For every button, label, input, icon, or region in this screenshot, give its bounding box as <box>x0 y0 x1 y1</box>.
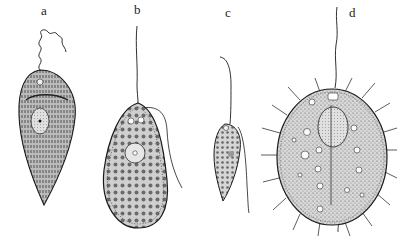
body-c <box>214 124 240 201</box>
flagellum-a <box>39 30 66 70</box>
flagellum-d <box>335 7 337 88</box>
organism-b <box>103 26 182 228</box>
body-b <box>103 103 167 228</box>
organism-d <box>261 7 397 236</box>
organism-c <box>214 57 249 213</box>
protozoa-illustration <box>0 0 397 238</box>
flagellum-c <box>220 57 231 124</box>
nucleus-d <box>318 107 348 147</box>
body-a <box>19 70 75 205</box>
organism-a <box>19 30 75 205</box>
flagellum-b <box>136 26 138 103</box>
